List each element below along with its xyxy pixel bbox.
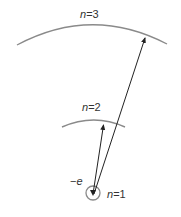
- orbit-n3: [17, 25, 167, 45]
- label-n3: n=3: [80, 8, 99, 20]
- transition-arrow-1-to-2: [93, 125, 104, 194]
- orbit-n2: [62, 120, 125, 127]
- label-n3-val: 3: [93, 8, 99, 20]
- label-n2-val: 2: [95, 101, 101, 113]
- electron-symbol: e: [76, 175, 82, 187]
- label-n1-val: 1: [120, 188, 126, 200]
- transition-arrow-1-to-3: [94, 38, 145, 194]
- electron-marker-icon: [90, 190, 96, 196]
- bohr-model-diagram: n=3 n=2 n=1 −e: [0, 0, 181, 217]
- label-n2: n=2: [82, 101, 101, 113]
- label-n1: n=1: [107, 188, 126, 200]
- label-electron: −e: [70, 175, 83, 187]
